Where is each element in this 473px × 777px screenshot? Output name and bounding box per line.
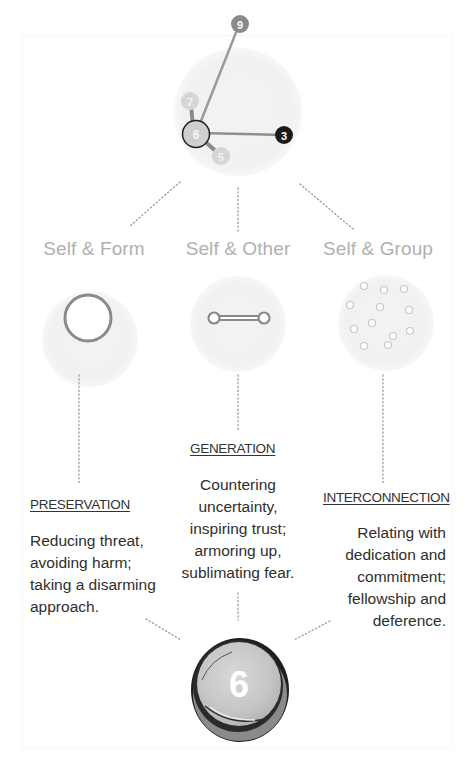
group-dot bbox=[361, 343, 368, 350]
description-generation: Countering uncertainty, inspiring trust;… bbox=[168, 474, 308, 584]
svg-text:5: 5 bbox=[218, 151, 224, 163]
group-dot bbox=[401, 286, 408, 293]
other-disc bbox=[190, 276, 286, 372]
heading-generation: GENERATION bbox=[190, 441, 275, 456]
form-disc bbox=[42, 291, 138, 387]
svg-text:9: 9 bbox=[237, 19, 243, 31]
group-dot bbox=[369, 320, 376, 327]
connector-group-to-badge bbox=[294, 621, 330, 640]
diagram-canvas: 9 7 3 5 6 bbox=[0, 0, 473, 777]
category-label-self-group: Self & Group bbox=[323, 238, 433, 260]
group-dot bbox=[407, 328, 414, 335]
description-interconnection: Relating with dedication and commitment;… bbox=[345, 522, 446, 632]
node-5: 5 bbox=[212, 147, 230, 165]
bottom-badge: 6 bbox=[191, 638, 289, 742]
group-dot bbox=[381, 287, 388, 294]
heading-interconnection: INTERCONNECTION bbox=[323, 490, 450, 505]
group-disc bbox=[338, 275, 434, 371]
category-label-self-other: Self & Other bbox=[186, 238, 291, 260]
group-dot bbox=[385, 342, 392, 349]
svg-text:6: 6 bbox=[193, 128, 200, 142]
group-dot bbox=[347, 302, 354, 309]
top-network-diagram: 9 7 3 5 6 bbox=[174, 15, 302, 176]
ring-icon bbox=[65, 295, 111, 341]
connector-top-to-form bbox=[130, 182, 180, 226]
badge-number: 6 bbox=[229, 664, 249, 705]
group-dot bbox=[351, 326, 358, 333]
group-dot bbox=[361, 283, 368, 290]
node-3: 3 bbox=[275, 126, 293, 144]
description-preservation: Reducing threat, avoiding harm; taking a… bbox=[30, 530, 156, 618]
group-dot bbox=[377, 304, 384, 311]
node-9: 9 bbox=[231, 15, 249, 33]
node-6-center: 6 bbox=[183, 121, 210, 148]
connector-form-to-badge bbox=[146, 619, 181, 640]
group-dot bbox=[390, 333, 397, 340]
node-7: 7 bbox=[181, 92, 199, 110]
category-label-self-form: Self & Form bbox=[43, 238, 144, 260]
svg-text:3: 3 bbox=[281, 130, 287, 142]
heading-preservation: PRESERVATION bbox=[30, 497, 130, 512]
connector-top-to-group bbox=[300, 184, 353, 229]
svg-text:7: 7 bbox=[187, 96, 193, 108]
group-dot bbox=[406, 307, 413, 314]
